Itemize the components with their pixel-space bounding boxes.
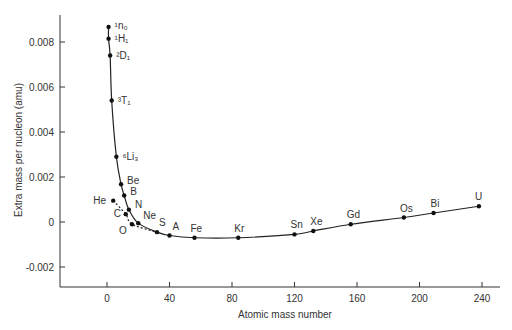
data-point bbox=[236, 236, 240, 240]
data-point bbox=[124, 212, 128, 216]
x-tick-label: 160 bbox=[349, 293, 366, 304]
point-label: Os bbox=[400, 203, 413, 214]
point-label: Fe bbox=[191, 223, 203, 234]
data-point bbox=[192, 236, 196, 240]
x-axis-label: Atomic mass number bbox=[238, 309, 333, 320]
x-tick-label: 0 bbox=[104, 293, 110, 304]
data-point bbox=[127, 207, 131, 211]
point-label: ²D₁ bbox=[116, 50, 131, 61]
data-point bbox=[119, 182, 123, 186]
data-point bbox=[122, 193, 126, 197]
y-tick-label: -0.002 bbox=[26, 262, 55, 273]
x-tick-label: 120 bbox=[286, 293, 303, 304]
point-label: A bbox=[173, 221, 180, 232]
y-tick-label: 0.008 bbox=[29, 37, 54, 48]
point-label: Sn bbox=[291, 219, 303, 230]
data-point bbox=[106, 36, 110, 40]
y-tick-label: 0 bbox=[48, 217, 54, 228]
point-label: Gd bbox=[347, 209, 360, 220]
main-curve bbox=[108, 27, 478, 238]
data-point bbox=[106, 25, 110, 29]
x-tick-label: 80 bbox=[226, 293, 238, 304]
point-label: Bi bbox=[431, 198, 440, 209]
point-label: Kr bbox=[234, 223, 245, 234]
y-axis-label: Extra mass per nucleon (amu) bbox=[13, 83, 24, 217]
point-label: O bbox=[119, 225, 127, 236]
data-point bbox=[114, 155, 118, 159]
data-point bbox=[311, 229, 315, 233]
data-point bbox=[349, 222, 353, 226]
chart: 04080120160200240-0.00200.0020.0040.0060… bbox=[0, 0, 512, 330]
point-label: Ne bbox=[143, 210, 156, 221]
data-point bbox=[108, 53, 112, 57]
point-label: Be bbox=[127, 175, 140, 186]
x-tick-label: 200 bbox=[411, 293, 428, 304]
data-point bbox=[292, 232, 296, 236]
data-point bbox=[167, 233, 171, 237]
data-point bbox=[402, 215, 406, 219]
data-point bbox=[109, 98, 113, 102]
data-point bbox=[111, 198, 115, 202]
data-point bbox=[431, 211, 435, 215]
point-label: He bbox=[93, 195, 106, 206]
x-tick-label: 40 bbox=[164, 293, 176, 304]
point-label: S bbox=[159, 217, 166, 228]
point-label: C bbox=[114, 208, 121, 219]
point-label: ⁶Li₃ bbox=[122, 151, 138, 162]
point-label: ³T₁ bbox=[118, 95, 131, 106]
point-label: ¹H₁ bbox=[115, 33, 130, 44]
point-label: Xe bbox=[310, 216, 323, 227]
point-label: ¹n₀ bbox=[115, 20, 128, 31]
series: ¹n₀¹H₁²D₁³T₁⁶Li₃BeBNNeSAFeKrSnXeGdOsBiUH… bbox=[93, 20, 482, 240]
y-tick-label: 0.002 bbox=[29, 172, 54, 183]
point-label: B bbox=[130, 186, 137, 197]
point-label: U bbox=[475, 191, 482, 202]
y-tick-label: 0.006 bbox=[29, 82, 54, 93]
data-point bbox=[136, 221, 140, 225]
data-point bbox=[477, 204, 481, 208]
tick-labels: 04080120160200240-0.00200.0020.0040.0060… bbox=[26, 37, 491, 304]
x-tick-label: 240 bbox=[474, 293, 491, 304]
data-point bbox=[130, 222, 134, 226]
point-label: N bbox=[135, 199, 142, 210]
y-tick-label: 0.004 bbox=[29, 127, 54, 138]
